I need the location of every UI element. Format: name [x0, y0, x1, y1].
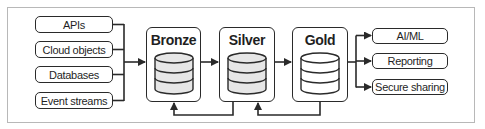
stage-bronze: Bronze — [146, 27, 201, 102]
output-secure-sharing: Secure sharing — [372, 79, 448, 95]
stage-title: Gold — [293, 32, 347, 48]
stage-title: Bronze — [147, 32, 200, 48]
stage-silver: Silver — [219, 27, 275, 102]
output-reporting: Reporting — [372, 53, 448, 69]
database-cylinder-icon — [299, 52, 341, 96]
database-cylinder-icon — [226, 52, 268, 96]
source-event-streams: Event streams — [35, 92, 113, 109]
stage-title: Silver — [220, 32, 274, 48]
output-label: AI/ML — [396, 30, 423, 42]
output-label: Secure sharing — [375, 81, 445, 93]
database-cylinder-icon — [153, 52, 195, 96]
source-apis: APIs — [35, 16, 113, 33]
source-label: Cloud objects — [43, 44, 106, 56]
stage-gold: Gold — [292, 27, 348, 102]
source-label: APIs — [63, 19, 85, 31]
source-databases: Databases — [35, 66, 113, 83]
source-cloud-objects: Cloud objects — [35, 41, 113, 58]
source-label: Databases — [49, 69, 99, 81]
source-label: Event streams — [41, 95, 107, 107]
output-ai-ml: AI/ML — [372, 28, 448, 44]
output-label: Reporting — [388, 55, 433, 67]
